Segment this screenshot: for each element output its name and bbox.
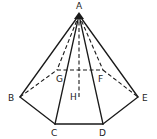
label-E: E — [142, 93, 148, 103]
label-B: B — [8, 93, 14, 103]
label-G: G — [56, 74, 63, 84]
edge-DE — [103, 97, 138, 124]
edge-FE — [103, 70, 138, 97]
label-A: A — [76, 1, 83, 11]
edge-BG — [20, 70, 57, 97]
label-C: C — [51, 128, 57, 138]
label-F: F — [98, 74, 103, 84]
label-H: H — [70, 92, 77, 102]
edge-BC — [20, 97, 55, 124]
edge-AG — [57, 15, 79, 70]
label-D: D — [99, 128, 106, 138]
hexagonal-pyramid-diagram: A B C D E F G H — [0, 0, 157, 139]
hidden-edges — [20, 15, 138, 97]
